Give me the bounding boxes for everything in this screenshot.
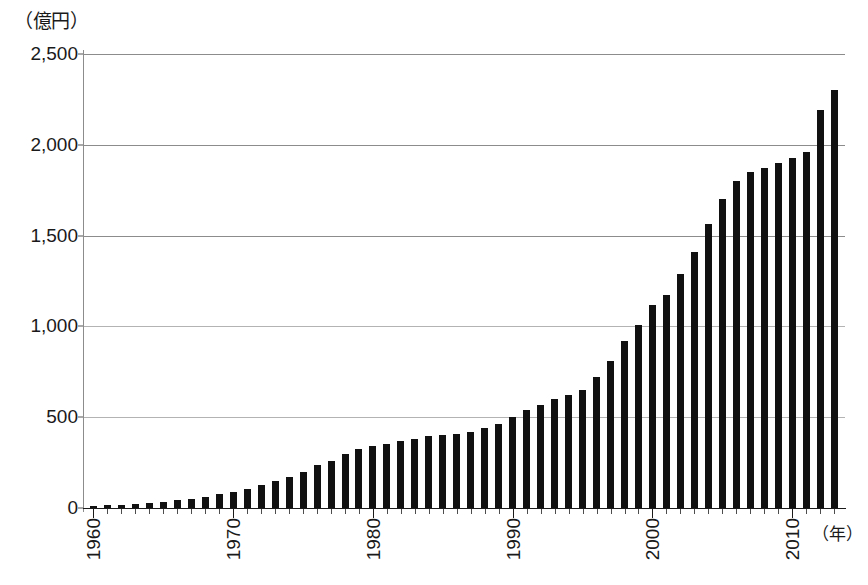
bar [202,497,209,508]
x-tick-mark [541,509,542,514]
bar [272,481,279,508]
bar [677,274,684,508]
x-tick-mark [666,509,667,514]
x-tick-mark [736,509,737,514]
bar [342,454,349,508]
bar [635,325,642,508]
bar [355,449,362,508]
y-tick-label-1000: 1,000 [30,315,78,337]
x-tick-mark [625,509,626,514]
bar [328,461,335,508]
y-tick-label-2000: 2,000 [30,134,78,156]
bar [579,390,586,508]
x-tick-mark [820,509,821,514]
bar [118,505,125,508]
bar [411,439,418,508]
x-tick-mark [485,509,486,514]
x-tick-mark [499,509,500,514]
x-axis-labels: 196019701980199020002010 [83,518,846,585]
x-tick-mark [247,509,248,514]
x-tick-mark [527,509,528,514]
x-tick-mark [373,509,374,518]
bar [817,110,824,508]
y-tick-label-1500: 1,500 [30,225,78,247]
x-tick-mark [359,509,360,514]
x-axis-unit-label: （年） [812,520,863,545]
bar [509,417,516,508]
x-tick-mark [219,509,220,514]
bar [104,505,111,508]
x-tick-mark [569,509,570,514]
x-tick-mark [387,509,388,514]
bar [188,499,195,508]
x-tick-mark [135,509,136,514]
x-tick-mark [107,509,108,514]
bar [286,477,293,508]
bar [831,90,838,508]
x-tick-mark [93,509,94,518]
x-tick-mark [149,509,150,514]
bar [537,405,544,508]
bar [425,436,432,508]
x-tick-mark [177,509,178,514]
bar [230,492,237,508]
bar [495,424,502,508]
x-tick-mark [471,509,472,514]
x-tick-mark [694,509,695,514]
bar [369,446,376,508]
x-tick-mark [583,509,584,514]
x-tick-label-1990: 1990 [503,518,525,560]
x-tick-mark [401,509,402,514]
x-tick-mark [638,509,639,514]
x-tick-mark [457,509,458,514]
bar [314,465,321,508]
bar [593,377,600,508]
bar [663,295,670,508]
bar [90,506,97,508]
x-tick-mark [415,509,416,514]
x-tick-mark [680,509,681,514]
x-tick-label-1960: 1960 [83,518,105,560]
x-tick-mark [205,509,206,514]
bar [383,444,390,508]
x-tick-mark [764,509,765,514]
x-tick-mark [233,509,234,518]
y-tick-label-500: 500 [46,406,78,428]
x-tick-mark [834,509,835,514]
bar [132,504,139,508]
bar-chart: （億円） 05001,0001,5002,0002,500 1960197019… [0,0,868,585]
bar [705,224,712,508]
x-tick-mark [275,509,276,514]
x-tick-label-1980: 1980 [363,518,385,560]
x-tick-mark [331,509,332,514]
y-tick-label-0: 0 [67,497,78,519]
x-tick-mark [261,509,262,514]
bar [607,361,614,508]
bar [216,494,223,508]
x-tick-mark [750,509,751,514]
x-tick-mark [289,509,290,514]
x-tick-mark [317,509,318,514]
bar [467,432,474,508]
x-tick-mark [429,509,430,514]
x-tick-mark [806,509,807,514]
x-tick-mark [303,509,304,514]
y-tick-label-2500: 2,500 [30,43,78,65]
x-tick-mark [708,509,709,514]
bar [775,163,782,508]
x-tick-mark [778,509,779,514]
bar [397,441,404,508]
x-tick-mark [652,509,653,518]
x-tick-mark [121,509,122,514]
bar [621,341,628,508]
bar [439,435,446,508]
x-tick-mark [191,509,192,514]
y-axis-ticks: 05001,0001,5002,0002,500 [0,0,78,585]
bar [803,152,810,508]
x-tick-mark [513,509,514,518]
bar [789,158,796,508]
bar [258,485,265,508]
bar [481,428,488,508]
x-tick-mark [555,509,556,514]
bar [761,168,768,509]
